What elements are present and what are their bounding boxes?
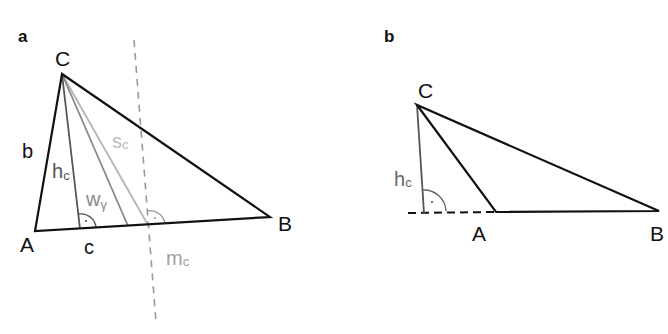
right-angle-marker	[423, 190, 446, 211]
panel-b: b C A B hc	[384, 27, 664, 245]
vertex-b-label: B	[650, 222, 664, 245]
right-angle-marker-midpoint	[147, 211, 165, 224]
extension-line-dashed	[408, 212, 496, 213]
altitude-line	[417, 105, 424, 213]
vertex-a-label: A	[20, 233, 34, 256]
median-label: sc	[112, 130, 129, 152]
right-angle-dot	[154, 217, 156, 219]
side-c-label: c	[84, 236, 94, 258]
panel-a-label: a	[18, 27, 28, 46]
angle-bisector-label: wγ	[85, 188, 107, 212]
right-angle-marker-altitude	[79, 214, 96, 228]
triangle-abc	[417, 105, 659, 212]
vertex-c-label: C	[418, 79, 433, 102]
altitude-line	[62, 74, 80, 229]
perpendicular-bisector-line	[134, 40, 156, 322]
perpendicular-bisector-label: mc	[166, 247, 190, 269]
altitude-label: hc	[52, 160, 70, 183]
right-angle-dot	[85, 220, 87, 222]
vertex-b-label: B	[278, 212, 292, 235]
panel-b-label: b	[384, 27, 394, 46]
side-b-label: b	[22, 140, 33, 162]
vertex-a-label: A	[472, 222, 486, 245]
panel-a: a C A B b c hc wγ sc mc	[18, 27, 292, 322]
right-angle-dot	[431, 201, 433, 203]
altitude-label: hc	[394, 168, 412, 190]
vertex-c-label: C	[55, 47, 70, 70]
triangle-figure: a C A B b c hc wγ sc mc b	[0, 0, 668, 334]
